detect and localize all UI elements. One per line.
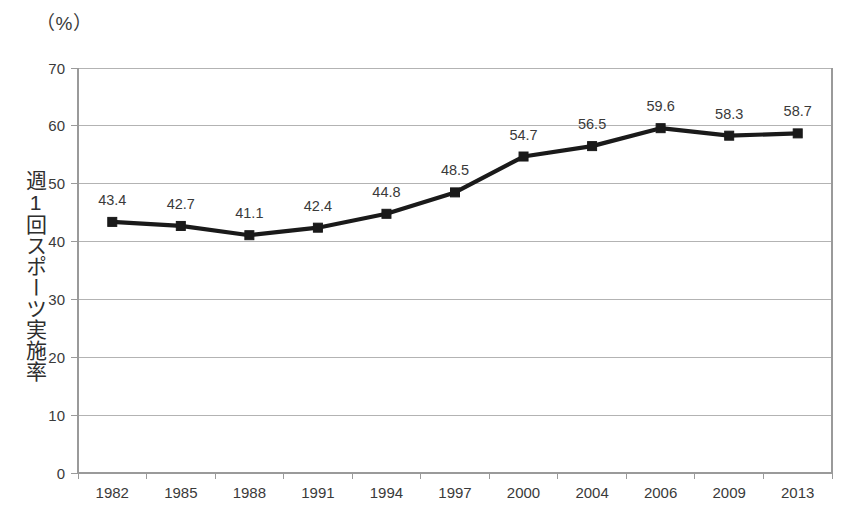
svg-text:60: 60 bbox=[48, 117, 65, 134]
data-labels: 43.442.741.142.444.848.554.756.559.658.3… bbox=[98, 98, 812, 221]
svg-text:2004: 2004 bbox=[575, 484, 608, 501]
svg-text:2013: 2013 bbox=[781, 484, 814, 501]
svg-text:2000: 2000 bbox=[507, 484, 540, 501]
x-axis-labels: 1982198519881991199419972000200420062009… bbox=[96, 484, 815, 501]
svg-text:42.4: 42.4 bbox=[304, 198, 332, 214]
svg-text:43.4: 43.4 bbox=[98, 192, 126, 208]
svg-text:41.1: 41.1 bbox=[235, 205, 263, 221]
gridlines bbox=[78, 68, 832, 473]
svg-text:44.8: 44.8 bbox=[372, 184, 400, 200]
svg-text:70: 70 bbox=[48, 60, 65, 77]
svg-text:50: 50 bbox=[48, 175, 65, 192]
data-markers bbox=[108, 124, 802, 240]
svg-text:48.5: 48.5 bbox=[441, 162, 469, 178]
plot-area: 010203040506070 43.442.741.142.444.848.5… bbox=[0, 0, 850, 531]
svg-text:1985: 1985 bbox=[164, 484, 197, 501]
svg-text:30: 30 bbox=[48, 291, 65, 308]
svg-text:59.6: 59.6 bbox=[647, 98, 675, 114]
svg-text:2009: 2009 bbox=[712, 484, 745, 501]
y-axis-ticks: 010203040506070 bbox=[48, 60, 78, 482]
svg-text:54.7: 54.7 bbox=[509, 127, 537, 143]
svg-text:58.7: 58.7 bbox=[784, 103, 812, 119]
data-line bbox=[112, 128, 797, 235]
svg-text:42.7: 42.7 bbox=[167, 196, 195, 212]
plot-border bbox=[78, 68, 832, 473]
svg-text:20: 20 bbox=[48, 349, 65, 366]
svg-text:1988: 1988 bbox=[233, 484, 266, 501]
svg-text:1982: 1982 bbox=[96, 484, 129, 501]
svg-text:40: 40 bbox=[48, 233, 65, 250]
line-chart: （%） 週1回スポーツ実施率 010203040506070 43.442.74… bbox=[0, 0, 850, 531]
svg-text:58.3: 58.3 bbox=[715, 106, 743, 122]
svg-text:1997: 1997 bbox=[438, 484, 471, 501]
svg-text:2006: 2006 bbox=[644, 484, 677, 501]
x-axis-ticks bbox=[78, 473, 832, 479]
svg-text:0: 0 bbox=[57, 465, 65, 482]
svg-text:1994: 1994 bbox=[370, 484, 403, 501]
svg-text:1991: 1991 bbox=[301, 484, 334, 501]
svg-text:56.5: 56.5 bbox=[578, 116, 606, 132]
svg-text:10: 10 bbox=[48, 407, 65, 424]
